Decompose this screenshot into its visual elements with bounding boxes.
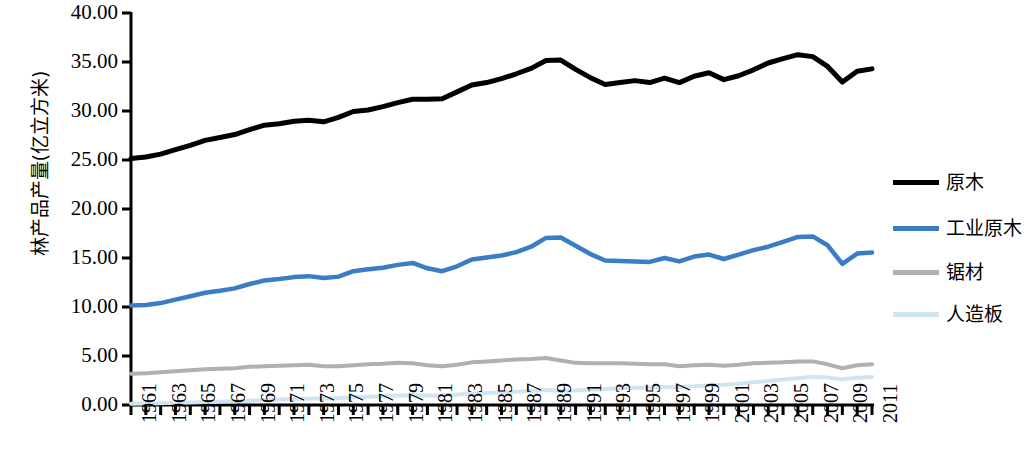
x-tick-label: 2011 bbox=[880, 384, 900, 423]
x-tick-label: 1997 bbox=[673, 383, 693, 423]
series-line-锯材 bbox=[131, 358, 872, 374]
x-tick-label: 1961 bbox=[139, 383, 159, 423]
x-tick-label: 1971 bbox=[287, 383, 307, 423]
legend-item-锯材[interactable]: 锯材 bbox=[893, 260, 984, 284]
x-tick-label: 1969 bbox=[258, 383, 278, 423]
x-tick-label: 1987 bbox=[524, 383, 544, 423]
x-tick-label: 2009 bbox=[850, 383, 870, 423]
x-tick-label: 1981 bbox=[435, 383, 455, 423]
x-tick-label: 1993 bbox=[613, 383, 633, 423]
x-tick-label: 2001 bbox=[732, 383, 752, 423]
series-line-原木 bbox=[131, 55, 872, 159]
legend-item-原木[interactable]: 原木 bbox=[893, 170, 984, 194]
x-tick-label: 1965 bbox=[198, 383, 218, 423]
legend-item-工业原木[interactable]: 工业原木 bbox=[893, 216, 1022, 240]
legend-label: 人造板 bbox=[946, 305, 1003, 324]
series-line-工业原木 bbox=[131, 236, 872, 305]
x-tick-label: 2003 bbox=[761, 383, 781, 423]
x-tick-label: 1999 bbox=[702, 383, 722, 423]
legend-item-人造板[interactable]: 人造板 bbox=[893, 302, 1003, 326]
x-tick-label: 1983 bbox=[465, 383, 485, 423]
x-tick-label: 2007 bbox=[821, 383, 841, 423]
x-tick-label: 1995 bbox=[643, 383, 663, 423]
x-tick-label: 1975 bbox=[346, 383, 366, 423]
legend-swatch-icon bbox=[893, 312, 939, 317]
x-tick-label: 1973 bbox=[317, 383, 337, 423]
legend-swatch-icon bbox=[893, 226, 939, 231]
legend-label: 原木 bbox=[946, 173, 984, 192]
x-tick-label: 1989 bbox=[554, 383, 574, 423]
legend-swatch-icon bbox=[893, 270, 939, 275]
x-tick-label: 1967 bbox=[228, 383, 248, 423]
x-tick-label: 1979 bbox=[406, 383, 426, 423]
legend-label: 工业原木 bbox=[946, 219, 1022, 238]
legend-swatch-icon bbox=[893, 180, 939, 185]
legend-label: 锯材 bbox=[946, 263, 984, 282]
x-tick-label: 1963 bbox=[169, 383, 189, 423]
x-tick-label: 1977 bbox=[376, 383, 396, 423]
x-tick-label: 2005 bbox=[791, 383, 811, 423]
x-tick-label: 1991 bbox=[584, 383, 604, 423]
line-chart: 40.0035.0030.0025.0020.0015.0010.005.000… bbox=[0, 0, 1034, 474]
x-tick-label: 1985 bbox=[495, 383, 515, 423]
